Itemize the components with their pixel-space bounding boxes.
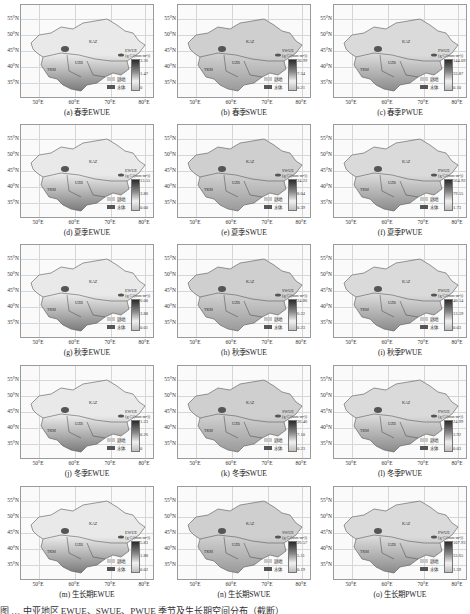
label-uzb: UZB	[75, 542, 83, 547]
lat-tick: 55°N	[313, 15, 332, 21]
label-tkm: TKM	[47, 549, 56, 554]
colorbar-min: 0.03	[453, 325, 461, 330]
colorbar	[288, 299, 297, 331]
map-panel-i: KAZUZBTKMPWUE(g C/(mm·m²))40.5413.590.03…	[313, 240, 469, 360]
lat-tick: 55°N	[0, 135, 19, 141]
lat-tick: 55°N	[157, 376, 176, 382]
label-uzb: UZB	[232, 542, 240, 547]
water-label: 水体	[117, 324, 125, 330]
lon-tick: 70°E	[104, 339, 115, 345]
colorbar-mid: 3.86	[140, 191, 148, 196]
lon-tick: 70°E	[417, 339, 428, 345]
cropland-label: 耕地	[430, 316, 438, 322]
lat-tick: 50°N	[157, 31, 176, 37]
colorbar-title: SWUE(g C/(mm·m²))	[282, 169, 307, 178]
colorbar-min: 0	[140, 446, 142, 451]
legend-water: 水体	[420, 324, 438, 330]
lat-tick: 50°N	[313, 151, 332, 157]
water-swatch	[264, 85, 272, 89]
cropland-swatch	[264, 77, 272, 81]
lon-tick: 80°E	[451, 339, 462, 345]
lat-tick: 45°N	[157, 167, 176, 173]
legend-cropland: 耕地	[264, 558, 282, 564]
cropland-label: 耕地	[117, 316, 125, 322]
lat-tick: 50°N	[313, 513, 332, 519]
water-label: 水体	[274, 566, 282, 572]
lat-tick: 50°N	[0, 31, 19, 37]
map-panel-m: KAZUZBTKMEWUE(g C/(mm·m²))5.831.880.02耕地…	[0, 482, 156, 602]
label-kaz: KAZ	[246, 39, 254, 44]
colorbar-min: 0.00	[140, 205, 148, 210]
water-swatch	[264, 325, 272, 329]
panel-caption: (b) 春季SWUE	[177, 106, 311, 117]
lat-tick: 55°N	[0, 255, 19, 261]
cropland-label: 耕地	[117, 437, 125, 443]
colorbar	[444, 299, 453, 331]
lon-tick: 70°E	[104, 581, 115, 587]
map-frame: KAZUZBTKMPWUE(g C/(mm·m²))24.993.920.03耕…	[333, 365, 467, 459]
lon-tick: 50°E	[189, 581, 200, 587]
label-kaz: KAZ	[246, 400, 254, 405]
lat-tick: 45°N	[313, 167, 332, 173]
label-tkm: TKM	[47, 428, 56, 433]
cropland-label: 耕地	[117, 76, 125, 82]
lat-tick: 50°N	[157, 392, 176, 398]
lat-tick: 40°N	[157, 183, 176, 189]
cropland-label: 耕地	[430, 437, 438, 443]
legend-water: 水体	[264, 204, 282, 210]
legend-cropland: 耕地	[107, 316, 125, 322]
map-panel-l: KAZUZBTKMPWUE(g C/(mm·m²))24.993.920.03耕…	[313, 361, 469, 481]
colorbar-mid: 33.65	[453, 553, 463, 558]
colorbar	[131, 420, 140, 452]
map-frame: KAZUZBTKMEWUE(g C/(mm·m²))1.230.260耕地水体	[20, 365, 154, 459]
colorbar	[288, 59, 297, 91]
lon-tick: 70°E	[417, 460, 428, 466]
cropland-swatch	[107, 317, 115, 321]
lon-tick: 50°E	[345, 460, 356, 466]
lat-tick: 40°N	[157, 303, 176, 309]
lon-tick: 50°E	[345, 581, 356, 587]
lat-tick: 35°N	[157, 79, 176, 85]
colorbar-title: EWUE(g C/(mm·m²))	[125, 531, 150, 540]
legend-water: 水体	[420, 445, 438, 451]
legend-cropland: 耕地	[420, 558, 438, 564]
label-uzb: UZB	[75, 300, 83, 305]
legend-cropland: 耕地	[107, 196, 125, 202]
label-kaz: KAZ	[89, 521, 97, 526]
cropland-swatch	[420, 559, 428, 563]
colorbar	[444, 420, 453, 452]
lon-tick: 80°E	[295, 339, 306, 345]
colorbar-max: 34.22	[297, 178, 307, 183]
lat-tick: 45°N	[313, 408, 332, 414]
water-label: 水体	[117, 445, 125, 451]
colorbar-title: EWUE(g C/(mm·m²))	[125, 289, 150, 298]
colorbar-max: 24.99	[453, 419, 463, 424]
cropland-swatch	[264, 197, 272, 201]
colorbar-mid: 7.10	[297, 432, 305, 437]
lat-tick: 40°N	[0, 545, 19, 551]
legend-water: 水体	[107, 84, 125, 90]
legend-cropland: 耕地	[264, 316, 282, 322]
legend-cropland: 耕地	[107, 558, 125, 564]
lon-tick: 70°E	[261, 339, 272, 345]
lat-tick: 40°N	[0, 63, 19, 69]
lon-tick: 80°E	[451, 581, 462, 587]
cropland-label: 耕地	[274, 76, 282, 82]
lon-tick: 80°E	[451, 219, 462, 225]
panel-caption: (g) 秋季EWUE	[20, 346, 154, 357]
lon-tick: 70°E	[261, 99, 272, 105]
panel-caption: (k) 冬季SWUE	[177, 467, 311, 478]
label-uzb: UZB	[232, 60, 240, 65]
figure-grid: KAZUZBTKMEWUE(g C/(mm·m²))3.361.470耕地水体5…	[0, 0, 470, 614]
lon-tick: 50°E	[345, 339, 356, 345]
panel-caption: (a) 春季EWUE	[20, 106, 154, 117]
lat-tick: 35°N	[0, 319, 19, 325]
map-panel-b: KAZUZBTKMSWUE(g C/(mm·m²))20.997.340.21耕…	[157, 0, 313, 120]
lat-tick: 35°N	[157, 319, 176, 325]
colorbar-mid: 8.04	[297, 191, 305, 196]
map-frame: KAZUZBTKMSWUE(g C/(mm·m²))34.228.040.39耕…	[177, 124, 311, 218]
lat-tick: 40°N	[157, 63, 176, 69]
lon-tick: 50°E	[189, 99, 200, 105]
lat-tick: 40°N	[0, 424, 19, 430]
lon-tick: 50°E	[189, 219, 200, 225]
